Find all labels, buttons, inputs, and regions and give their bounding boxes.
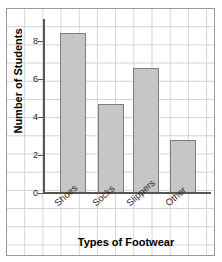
y-tick-label-2: 2 [24,151,38,160]
y-axis-title: Number of Students [12,16,24,146]
bar-shoes [60,33,86,193]
bar-chart-figure: 8 6 4 2 0 Number of Students Shoes Socks… [0,0,222,262]
bar-slippers [133,68,159,193]
y-tick-mark-6 [38,79,44,80]
y-tick-label-0-wrap: 0 [18,189,38,198]
y-axis-line [43,19,45,194]
y-tick-mark-8 [38,41,44,42]
x-axis-title: Types of Footwear [40,236,212,248]
y-tick-mark-4 [38,117,44,118]
y-tick-mark-0 [38,193,44,194]
y-tick-label-4: 4 [24,113,38,122]
plot-area [44,22,210,193]
bar-socks [98,104,124,193]
y-tick-label-8: 8 [24,37,38,46]
bar-other [170,140,196,193]
y-tick-label-0: 0 [24,189,38,198]
y-tick-label-2-wrap: 2 [18,151,38,160]
y-tick-label-6: 6 [24,75,38,84]
y-tick-mark-2 [38,155,44,156]
